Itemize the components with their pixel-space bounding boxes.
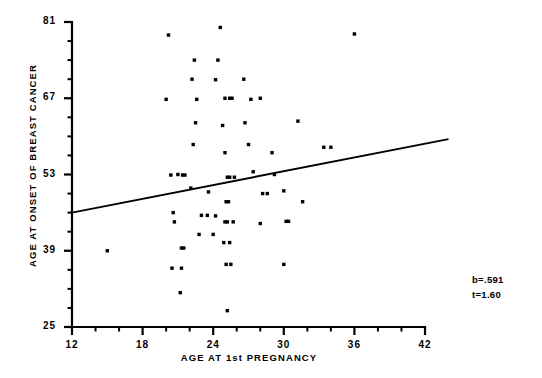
data-point: [329, 146, 332, 149]
data-point: [228, 176, 231, 179]
data-point: [173, 220, 176, 223]
x-axis-tick-label: 24: [198, 339, 228, 350]
data-point: [194, 121, 197, 124]
data-point: [287, 220, 290, 223]
x-axis-tick-label: 18: [128, 339, 158, 350]
data-point: [273, 173, 276, 176]
data-point: [270, 151, 273, 154]
data-point: [259, 97, 262, 100]
statistics-annotation: b=.591 t=1.60: [472, 272, 504, 302]
scatter-plot-figure: AGE AT ONSET OF BREAST CANCER AGE AT 1st…: [0, 0, 542, 378]
data-point: [216, 58, 219, 61]
data-point: [214, 78, 217, 81]
x-axis-tick-label: 30: [269, 339, 299, 350]
plot-canvas: [0, 0, 542, 378]
data-point: [171, 211, 174, 214]
data-point: [233, 176, 236, 179]
data-point: [353, 32, 356, 35]
data-point: [207, 190, 210, 193]
data-point: [230, 97, 233, 100]
regression-line: [72, 139, 449, 213]
t-statistic-label: t=1.60: [472, 287, 504, 302]
data-point: [169, 173, 172, 176]
data-point: [266, 192, 269, 195]
y-axis-tick-label: 67: [16, 91, 56, 102]
data-point: [219, 26, 222, 29]
data-point: [296, 119, 299, 122]
data-point: [223, 97, 226, 100]
data-point: [197, 233, 200, 236]
x-axis-tick-label: 36: [339, 339, 369, 350]
data-point: [322, 146, 325, 149]
regression-slope-label: b=.591: [472, 272, 504, 287]
x-axis-tick-label: 42: [410, 339, 440, 350]
data-point: [195, 98, 198, 101]
data-point: [164, 98, 167, 101]
data-point: [176, 173, 179, 176]
data-point: [232, 220, 235, 223]
x-axis-tick-label: 12: [57, 339, 87, 350]
data-point: [193, 58, 196, 61]
data-point: [214, 214, 217, 217]
data-point-group: [106, 26, 357, 313]
data-point: [229, 263, 232, 266]
x-axis-title: AGE AT 1st PREGNANCY: [72, 352, 426, 363]
data-point: [167, 33, 170, 36]
data-point: [261, 192, 264, 195]
data-point: [249, 98, 252, 101]
data-point: [224, 263, 227, 266]
y-axis-tick-label: 53: [16, 168, 56, 179]
data-point: [180, 266, 183, 269]
data-point: [189, 186, 192, 189]
y-axis-tick-label: 25: [16, 320, 56, 331]
data-point: [247, 143, 250, 146]
data-point: [183, 173, 186, 176]
data-point: [243, 121, 246, 124]
data-point: [259, 222, 262, 225]
data-point: [192, 143, 195, 146]
y-axis-tick-label: 81: [16, 15, 56, 26]
data-point: [222, 241, 225, 244]
data-point: [226, 309, 229, 312]
data-point: [200, 214, 203, 217]
data-point: [252, 170, 255, 173]
data-point: [221, 124, 224, 127]
data-point: [206, 214, 209, 217]
data-point: [282, 263, 285, 266]
data-point: [182, 246, 185, 249]
data-point: [179, 291, 182, 294]
data-point: [228, 241, 231, 244]
data-point: [242, 77, 245, 80]
y-axis-tick-label: 39: [16, 244, 56, 255]
data-point: [170, 266, 173, 269]
data-point: [106, 249, 109, 252]
data-point: [282, 189, 285, 192]
data-point: [226, 220, 229, 223]
data-point: [223, 151, 226, 154]
data-point: [190, 77, 193, 80]
data-point: [227, 200, 230, 203]
data-point: [301, 200, 304, 203]
data-point: [212, 233, 215, 236]
